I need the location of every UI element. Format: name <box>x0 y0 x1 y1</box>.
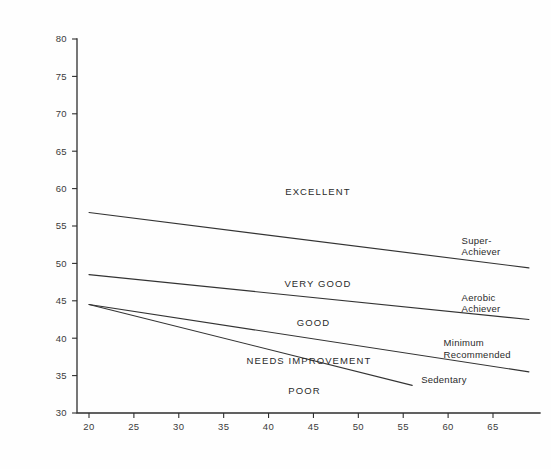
y-tick-label: 55 <box>56 220 67 231</box>
series-label-line: Achiever <box>462 303 501 314</box>
zone-label-poor: POOR <box>288 385 320 396</box>
x-axis-ticks: 20253035404550556065 <box>83 413 498 432</box>
y-tick-label: 65 <box>56 146 67 157</box>
series-label-super-achiever: Super-Achiever <box>462 235 501 258</box>
y-tick-label: 70 <box>56 108 67 119</box>
x-tick-label: 45 <box>308 421 319 432</box>
chart-canvas: 3035404550556065707580 20253035404550556… <box>0 0 551 469</box>
x-tick-label: 65 <box>487 421 498 432</box>
y-tick-label: 45 <box>56 295 67 306</box>
x-tick-label: 55 <box>398 421 409 432</box>
zone-label-very-good: VERY GOOD <box>284 278 351 289</box>
series-label-aerobic-achiever: AerobicAchiever <box>462 292 501 315</box>
series-label-line: Aerobic <box>462 292 496 303</box>
x-tick-label: 30 <box>173 421 184 432</box>
series-line-sedentary <box>89 305 412 386</box>
series-label-line: Minimum <box>444 337 484 348</box>
x-tick-label: 25 <box>128 421 139 432</box>
series-label-line: Achiever <box>462 246 501 257</box>
zone-label-needs-improvement: NEEDS IMPROVEMENT <box>247 355 372 366</box>
series-label-line: Super- <box>462 235 492 246</box>
y-axis-ticks: 3035404550556065707580 <box>56 33 77 418</box>
series-label-sedentary: Sedentary <box>421 374 467 385</box>
y-tick-label: 60 <box>56 183 67 194</box>
zone-label-excellent: EXCELLENT <box>285 186 350 197</box>
series-label-line: Recommended <box>444 349 511 360</box>
y-tick-label: 35 <box>56 370 67 381</box>
y-tick-label: 30 <box>56 407 67 418</box>
series-label-minimum-recommended: MinimumRecommended <box>444 337 511 360</box>
fitness-zone-chart: 3035404550556065707580 20253035404550556… <box>0 0 551 469</box>
y-tick-label: 75 <box>56 71 67 82</box>
x-tick-label: 60 <box>442 421 453 432</box>
y-tick-label: 80 <box>56 33 67 44</box>
series-label-line: Sedentary <box>421 374 467 385</box>
x-tick-label: 50 <box>353 421 364 432</box>
zone-label-good: GOOD <box>297 317 330 328</box>
zone-labels: EXCELLENTVERY GOODGOODNEEDS IMPROVEMENTP… <box>247 186 372 396</box>
y-tick-label: 50 <box>56 258 67 269</box>
x-tick-label: 35 <box>218 421 229 432</box>
x-tick-label: 20 <box>83 421 94 432</box>
y-tick-label: 40 <box>56 333 67 344</box>
x-tick-label: 40 <box>263 421 274 432</box>
